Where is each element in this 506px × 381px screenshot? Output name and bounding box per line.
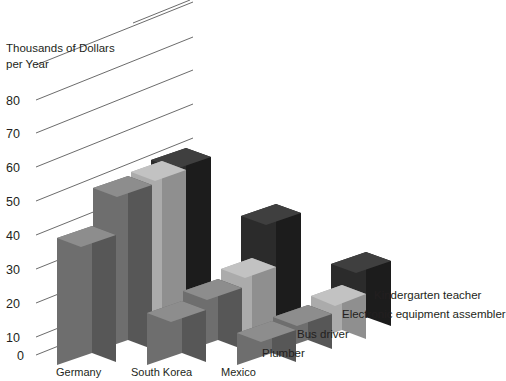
x-axis-labels: Germany South Korea Mexico — [56, 366, 256, 378]
bar-germany-plumber — [57, 226, 116, 365]
y-tick-40: 40 — [6, 229, 20, 243]
category-label-mexico: Mexico — [221, 366, 256, 378]
y-tick-50: 50 — [6, 195, 20, 209]
y-tick-60: 60 — [6, 161, 20, 175]
y-tick-80: 80 — [6, 94, 20, 108]
y-tick-30: 30 — [6, 263, 20, 277]
category-label-germany: Germany — [56, 366, 102, 378]
series-label-plumber: Plumber — [262, 347, 305, 359]
category-label-south-korea: South Korea — [131, 366, 193, 378]
y-tick-0: 0 — [17, 349, 24, 363]
y-axis-title-line2: per Year — [6, 58, 49, 70]
y-tick-70: 70 — [6, 127, 20, 141]
bar-chart-svg: 80 70 60 50 40 30 20 10 0 Thousands of D… — [0, 0, 506, 381]
series-label-bus-driver: Bus driver — [297, 328, 349, 340]
chart-figure: 80 70 60 50 40 30 20 10 0 Thousands of D… — [0, 0, 506, 381]
series-label-kindergarten: Kindergarten teacher — [374, 289, 482, 301]
y-axis-title-line1: Thousands of Dollars — [6, 42, 115, 54]
y-tick-20: 20 — [6, 297, 20, 311]
series-label-electronic: Electronic equipment assembler — [342, 308, 506, 320]
y-tick-10: 10 — [6, 331, 20, 345]
